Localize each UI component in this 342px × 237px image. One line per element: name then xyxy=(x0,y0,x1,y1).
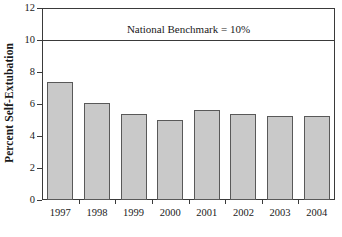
x-tick-mark xyxy=(152,199,153,204)
bar xyxy=(157,120,183,200)
y-axis-line xyxy=(42,8,43,200)
plot-area: 024681012 National Benchmark = 10% 19971… xyxy=(42,8,335,200)
x-tick-mark xyxy=(115,199,116,204)
y-tick-mark xyxy=(37,104,42,105)
x-tick-label: 1997 xyxy=(50,208,71,219)
x-tick-label: 2000 xyxy=(160,208,181,219)
bar xyxy=(47,82,73,200)
y-tick-label: 4 xyxy=(30,131,35,142)
x-tick-mark xyxy=(189,199,190,204)
x-tick-mark xyxy=(262,199,263,204)
y-tick-mark xyxy=(37,8,42,9)
x-tick-label: 1998 xyxy=(86,208,107,219)
y-tick-label: 10 xyxy=(25,35,36,46)
bar xyxy=(194,110,220,200)
x-tick-label: 2002 xyxy=(233,208,254,219)
y-tick-mark xyxy=(37,200,42,201)
x-tick-label: 2004 xyxy=(306,208,327,219)
y-tick-label: 2 xyxy=(30,163,35,174)
bar-chart-figure: Percent Self-Extubation 024681012 Nation… xyxy=(0,0,342,237)
bar xyxy=(304,116,330,200)
y-tick-mark xyxy=(37,136,42,137)
x-tick-mark xyxy=(225,199,226,204)
bar xyxy=(121,114,147,200)
x-tick-label: 2001 xyxy=(196,208,217,219)
bar xyxy=(84,103,110,200)
y-tick-label: 6 xyxy=(30,99,35,110)
y-tick-label: 0 xyxy=(30,195,35,206)
y-axis-title-text: Percent Self-Extubation xyxy=(3,43,15,163)
plot-frame-right xyxy=(334,8,335,200)
y-tick-label: 12 xyxy=(25,3,36,14)
y-axis-title: Percent Self-Extubation xyxy=(0,0,18,205)
x-tick-mark xyxy=(298,199,299,204)
x-tick-label: 1999 xyxy=(123,208,144,219)
y-tick-mark xyxy=(37,72,42,73)
bar xyxy=(230,114,256,200)
plot-frame-top xyxy=(42,8,335,9)
x-tick-label: 2003 xyxy=(270,208,291,219)
y-tick-mark xyxy=(37,168,42,169)
benchmark-label: National Benchmark = 10% xyxy=(42,23,335,35)
x-tick-mark xyxy=(79,199,80,204)
y-tick-label: 8 xyxy=(30,67,35,78)
benchmark-line xyxy=(42,40,335,41)
bar xyxy=(267,116,293,200)
